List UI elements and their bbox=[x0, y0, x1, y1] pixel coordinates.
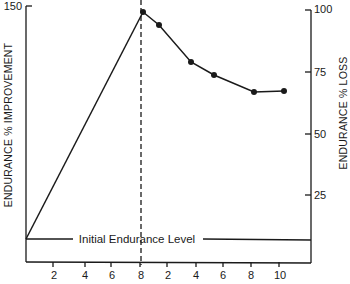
right-tick-label-25: 25 bbox=[314, 189, 326, 201]
training-series-line bbox=[26, 12, 143, 239]
right-axis-title: ENDURANCE % LOSS bbox=[337, 57, 349, 170]
left-axis-title: ENDURANCE % IMPROVEMENT bbox=[2, 42, 14, 207]
x-tick-label: 4 bbox=[193, 269, 199, 281]
data-point bbox=[281, 88, 287, 94]
endurance-chart: 150 100 75 50 25 2 4 6 8 2 4 6 8 10 ENDU… bbox=[0, 0, 350, 284]
x-tick-label: 2 bbox=[165, 269, 171, 281]
left-tick-label-150: 150 bbox=[4, 0, 22, 12]
data-point bbox=[251, 89, 257, 95]
x-tick-label: 8 bbox=[248, 269, 254, 281]
x-tick-label: 2 bbox=[51, 269, 57, 281]
initial-level-label: Initial Endurance Level bbox=[79, 233, 195, 245]
data-point bbox=[211, 72, 217, 78]
x-tick-label: 6 bbox=[109, 269, 115, 281]
x-tick-labels: 2 4 6 8 2 4 6 8 10 bbox=[51, 269, 286, 281]
detraining-markers bbox=[140, 9, 287, 95]
data-point bbox=[188, 59, 194, 65]
x-tick-label: 4 bbox=[82, 269, 88, 281]
x-tick-label: 8 bbox=[138, 269, 144, 281]
data-point bbox=[156, 22, 162, 28]
axes bbox=[26, 6, 311, 267]
right-tick-label-100: 100 bbox=[314, 3, 332, 15]
x-tick-label: 6 bbox=[220, 269, 226, 281]
data-point bbox=[140, 9, 146, 15]
right-tick-label-50: 50 bbox=[314, 128, 326, 140]
right-tick-label-75: 75 bbox=[314, 66, 326, 78]
bottom-axis bbox=[26, 262, 311, 263]
x-tick-label: 10 bbox=[274, 269, 286, 281]
detraining-series-line bbox=[143, 12, 284, 92]
